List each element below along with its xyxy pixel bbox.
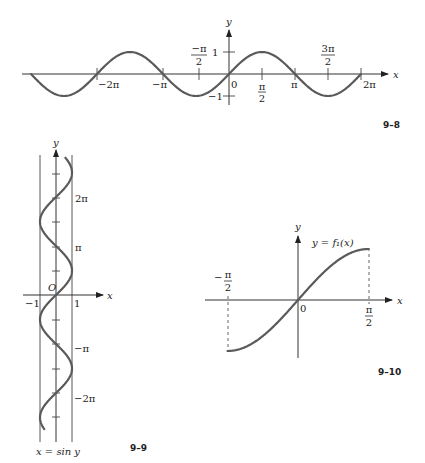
figure-9-9: y x O −1 1 2π π −π −2π x = sin y 9–9 <box>23 137 147 457</box>
y-axis-label: y <box>294 221 301 232</box>
tick-label-neg-2pi: −2π <box>98 79 120 90</box>
svg-text:π: π <box>225 269 232 280</box>
x-tick-label-neg1: −1 <box>25 298 40 309</box>
figure-canvas: x y −2π −π 0 π 2π −π 2 π 2 3π 2 1 −1 9–8 <box>0 0 425 463</box>
y-tick-label-neg1: −1 <box>208 91 223 102</box>
svg-text:3π: 3π <box>322 43 335 54</box>
tick-label-half-pi: π 2 <box>258 81 266 104</box>
curve-label: y = f₁(x) <box>311 237 354 248</box>
x-axis-label: x <box>397 295 403 306</box>
figure-number: 9–9 <box>130 443 147 453</box>
figure-number: 9–10 <box>378 367 401 377</box>
y-axis-label: y <box>225 16 232 27</box>
tick-label-pi: π <box>291 79 298 90</box>
figure-number: 9–8 <box>383 120 400 130</box>
svg-text:2: 2 <box>366 317 372 328</box>
svg-text:−π: −π <box>192 43 207 54</box>
curve-label: x = sin y <box>36 446 80 457</box>
tick-label-neg-half-pi: − π 2 <box>214 269 232 293</box>
y-tick-label-neg-pi: −π <box>74 343 89 354</box>
y-tick-label-1: 1 <box>212 47 218 58</box>
x-axis-label: x <box>107 290 113 301</box>
svg-text:2: 2 <box>325 56 331 67</box>
tick-label-2pi: 2π <box>363 79 376 90</box>
tick-label-three-half-pi: 3π 2 <box>321 43 335 67</box>
svg-text:2: 2 <box>225 282 231 293</box>
y-tick-label-neg-2pi: −2π <box>74 393 96 404</box>
y-tick-label-2pi: 2π <box>75 193 88 204</box>
x-axis-label: x <box>393 69 399 80</box>
tick-label-zero: 0 <box>231 79 237 90</box>
origin-label: 0 <box>300 303 306 314</box>
figure-9-8: x y −2π −π 0 π 2π −π 2 π 2 3π 2 1 −1 9–8 <box>22 16 400 130</box>
svg-text:π: π <box>366 304 373 315</box>
x-tick-label-1: 1 <box>74 298 80 309</box>
svg-text:2: 2 <box>196 56 202 67</box>
origin-label: O <box>48 282 56 293</box>
y-tick-label-pi: π <box>75 242 82 253</box>
svg-text:2: 2 <box>259 93 265 104</box>
figure-9-10: y x 0 y = f₁(x) − π 2 π 2 9–10 <box>205 221 403 377</box>
tick-label-half-pi: π 2 <box>365 304 373 328</box>
svg-text:−: − <box>214 272 222 283</box>
tick-label-neg-pi: −π <box>152 79 167 90</box>
svg-text:π: π <box>259 81 266 92</box>
y-axis-label: y <box>52 137 59 148</box>
tick-label-neg-half-pi: −π 2 <box>191 43 207 67</box>
